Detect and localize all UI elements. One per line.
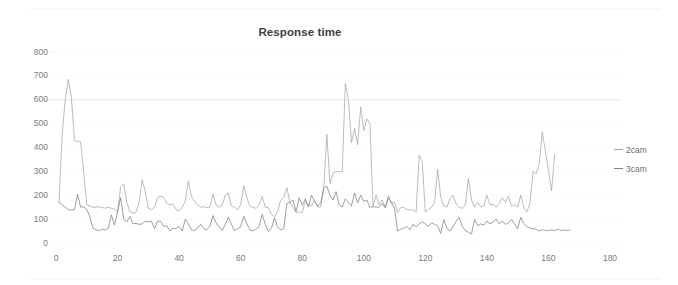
- response-time-chart: Response time 0100200300400500600700800 …: [0, 0, 678, 285]
- x-tick-label: 0: [41, 254, 71, 263]
- x-tick-label: 40: [164, 254, 194, 263]
- x-tick-label: 80: [287, 254, 317, 263]
- x-tick-label: 140: [472, 254, 502, 263]
- x-tick-label: 160: [533, 254, 563, 263]
- x-tick-label: 100: [349, 254, 379, 263]
- x-tick-label: 180: [595, 254, 625, 263]
- legend-swatch-3cam: [614, 168, 623, 169]
- legend-item-3cam[interactable]: 3cam: [614, 159, 674, 178]
- legend-label-3cam: 3cam: [626, 164, 647, 174]
- x-tick-label: 60: [226, 254, 256, 263]
- legend-item-2cam[interactable]: 2cam: [614, 140, 674, 159]
- x-tick-label: 20: [103, 254, 133, 263]
- chart-legend: 2cam 3cam: [614, 140, 674, 178]
- x-tick-label: 120: [410, 254, 440, 263]
- legend-swatch-2cam: [614, 149, 623, 150]
- legend-label-2cam: 2cam: [626, 145, 647, 155]
- x-axis: 020406080100120140160180: [0, 0, 678, 285]
